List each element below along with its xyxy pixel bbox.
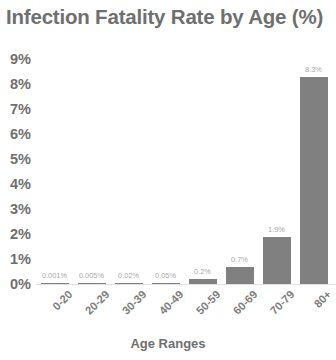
bar-group: 0.2% [184,40,221,284]
bar-60-69[interactable] [226,267,254,285]
x-axis-tick-30-39: 30-39 [119,288,148,317]
bar-value-label-50-59: 0.2% [194,267,211,276]
y-axis-tick-6pct: 6% [10,126,31,142]
bar-value-label-60-69: 0.7% [231,255,248,264]
bar-group: 1.9% [258,40,295,284]
bar-value-label-40-49: 0.05% [155,271,176,280]
y-axis-tick-1pct: 1% [10,251,31,267]
x-axis-tick-0-20: 0-20 [50,288,74,312]
y-axis-tick-8pct: 8% [10,76,31,92]
bar-70-79[interactable] [263,237,291,285]
bar-value-label-20-29: 0.005% [79,271,104,280]
x-axis-tick-50-59: 50-59 [193,288,222,317]
y-axis-tick-9pct: 9% [10,51,31,67]
bar-group: 0.005% [73,40,110,284]
chart-title: Infection Fatality Rate by Age (%) [6,5,336,29]
bar-80+[interactable] [300,77,328,285]
x-axis-title: Age Ranges [0,336,336,351]
x-axis-tick-labels: 0-2020-2930-3940-4950-5960-6970-7980+ [36,288,332,332]
x-axis-tick-20-29: 20-29 [82,288,111,317]
bar-group: 0.05% [147,40,184,284]
bar-value-label-0-20: 0.001% [42,271,67,280]
y-axis-tick-0pct: 0% [10,276,31,292]
bar-value-label-80+: 8.3% [305,65,322,74]
y-axis-tick-7pct: 7% [10,101,31,117]
bar-group: 8.3% [295,40,332,284]
y-axis-tick-3pct: 3% [10,201,31,217]
y-axis-tick-4pct: 4% [10,176,31,192]
bar-group: 0.02% [110,40,147,284]
bar-value-label-70-79: 1.9% [268,225,285,234]
x-axis-tick-80+: 80+ [311,288,333,310]
x-axis-baseline [36,284,336,285]
x-axis-tick-60-69: 60-69 [230,288,259,317]
chart-container: Infection Fatality Rate by Age (%) 0%1%2… [0,0,336,360]
bar-series: 0.001%0.005%0.02%0.05%0.2%0.7%1.9%8.3% [36,40,332,284]
x-axis-tick-70-79: 70-79 [267,288,296,317]
bar-group: 0.001% [36,40,73,284]
bar-group: 0.7% [221,40,258,284]
plot-area: 0%1%2%3%4%5%6%7%8%9% 0.001%0.005%0.02%0.… [36,40,332,288]
y-axis-tick-2pct: 2% [10,226,31,242]
bar-value-label-30-39: 0.02% [118,271,139,280]
y-axis-tick-5pct: 5% [10,151,31,167]
x-axis-tick-40-49: 40-49 [156,288,185,317]
